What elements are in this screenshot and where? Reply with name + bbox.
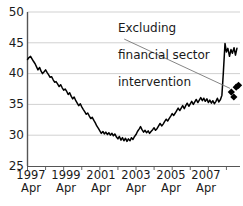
x-tick-label-2001: 2001 Apr bbox=[81, 169, 121, 194]
chart-container: 50 45 40 35 30 25 1997 Apr 1999 Apr 2001… bbox=[0, 0, 243, 206]
annotation-line-3: intervention bbox=[118, 75, 191, 89]
y-tick-label-30: 30 bbox=[0, 129, 24, 141]
x-tick-label-2007: 2007 Apr bbox=[186, 169, 226, 194]
x-tick-month: Apr bbox=[81, 182, 121, 195]
x-tick-month: Apr bbox=[11, 182, 51, 195]
annotation-line-1: Excluding bbox=[118, 21, 176, 35]
x-tick-label-2005: 2005 Apr bbox=[151, 169, 191, 194]
x-tick-month: Apr bbox=[116, 182, 156, 195]
chart-annotation: Excluding financial sector intervention bbox=[118, 8, 210, 89]
x-tick-label-1997: 1997 Apr bbox=[11, 169, 51, 194]
data-series-markers-group bbox=[228, 82, 242, 101]
y-tick-label-50: 50 bbox=[0, 6, 24, 18]
x-tick-month: Apr bbox=[46, 182, 86, 195]
x-tick-month: Apr bbox=[151, 182, 191, 195]
x-tick-year: 2005 bbox=[151, 169, 191, 182]
x-tick-year: 2003 bbox=[116, 169, 156, 182]
y-tick-label-40: 40 bbox=[0, 67, 24, 79]
y-tick-label-45: 45 bbox=[0, 37, 24, 49]
x-tick-label-1999: 1999 Apr bbox=[46, 169, 86, 194]
y-tick-label-35: 35 bbox=[0, 98, 24, 110]
x-tick-month: Apr bbox=[186, 182, 226, 195]
x-tick-year: 1997 bbox=[11, 169, 51, 182]
x-tick-year: 2007 bbox=[186, 169, 226, 182]
x-tick-label-2003: 2003 Apr bbox=[116, 169, 156, 194]
x-tick-year: 2001 bbox=[81, 169, 121, 182]
x-tick-year: 1999 bbox=[46, 169, 86, 182]
annotation-line-2: financial sector bbox=[118, 48, 210, 62]
